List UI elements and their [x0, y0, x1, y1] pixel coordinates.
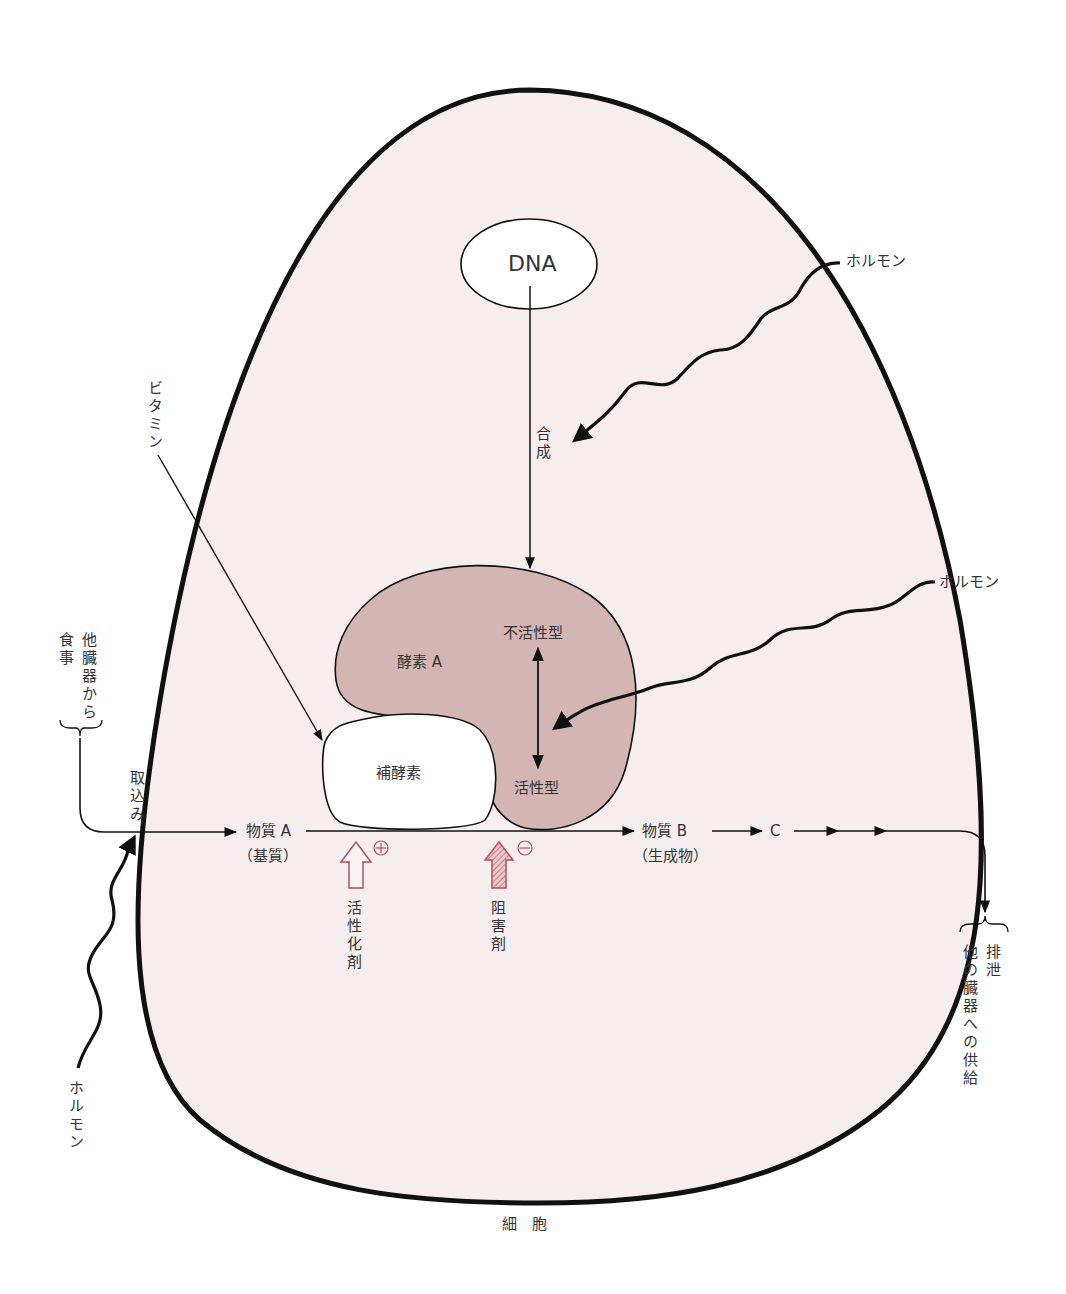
active-form-label: 活性型	[514, 781, 559, 796]
product-label: 物質 B	[642, 824, 687, 839]
food-label: 食事	[57, 632, 72, 668]
substrate-note-label: （基質）	[238, 849, 298, 864]
hormone-wave-arrow-bottom	[78, 838, 134, 1068]
enzyme-a-label: 酵素 A	[397, 655, 442, 670]
product-note-label: （生成物）	[633, 849, 708, 864]
synthesis-label: 合成	[534, 426, 549, 462]
c-label: C	[770, 824, 780, 839]
inhibitor-label: 阻害剤	[489, 900, 504, 954]
cell-title: 細 胞	[502, 1217, 547, 1232]
dna-label: DNA	[508, 253, 556, 275]
coenzyme-label: 補酵素	[376, 766, 421, 781]
substrate-label: 物質 A	[246, 824, 291, 839]
hormone-mid-label: ホルモン	[939, 575, 999, 590]
other-organs-label: 他臓器から	[80, 632, 95, 722]
inactive-form-label: 不活性型	[503, 626, 563, 641]
excretion-label: 排泄	[984, 944, 999, 980]
hormone-top-label: ホルモン	[846, 254, 906, 269]
hormone-bottom-label: ホルモン	[67, 1080, 82, 1152]
supply-other-organs-label: 他の臓器への供給	[961, 944, 976, 1088]
activator-label: 活性化剤	[345, 900, 360, 972]
cell-diagram	[0, 0, 1066, 1294]
uptake-label: 取込み	[128, 770, 143, 824]
source-brace	[60, 720, 102, 736]
vitamin-label: ビタミン	[146, 380, 161, 452]
